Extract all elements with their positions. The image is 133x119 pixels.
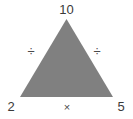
division-sign-icon-left: ÷ [23,45,39,58]
vertex-label-bottom-right: 5 [111,100,131,113]
division-sign-icon-right: ÷ [89,45,105,58]
number-triangle-diagram: 10 2 5 ÷ ÷ × [0,0,133,119]
vertex-label-bottom-left: 2 [1,100,21,113]
vertex-label-top: 10 [0,3,133,16]
multiplication-sign-icon-bottom: × [57,102,77,113]
